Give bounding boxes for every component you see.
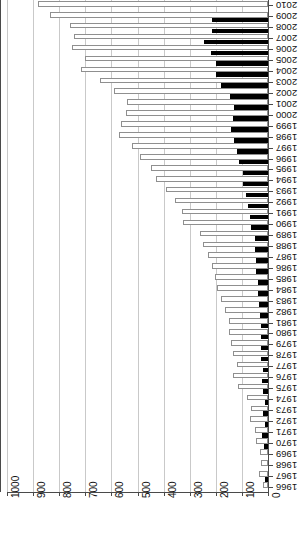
bar-total-1988: [203, 242, 268, 248]
y-tick-1999: [269, 126, 273, 127]
year-label-1985: 1985: [276, 274, 297, 284]
x-tick-label-200: 200: [220, 481, 230, 498]
y-tick-2006: [269, 49, 273, 50]
bar-total-1980: [229, 329, 268, 335]
y-tick-1981: [269, 323, 273, 324]
bar-total-2002: [114, 88, 268, 94]
year-label-2000: 2000: [276, 110, 297, 120]
y-tick-1991: [269, 213, 273, 214]
y-tick-1966: [269, 487, 273, 488]
year-label-1975: 1975: [276, 383, 297, 393]
year-label-1984: 1984: [276, 285, 297, 295]
year-label-1979: 1979: [276, 339, 297, 349]
year-label-2007: 2007: [276, 33, 297, 43]
bar-subset-1975: [263, 389, 268, 394]
bar-subset-2008: [212, 29, 268, 34]
year-label-1996: 1996: [276, 154, 297, 164]
year-label-2005: 2005: [276, 55, 297, 65]
year-label-2002: 2002: [276, 88, 297, 98]
bar-total-1976: [233, 373, 268, 379]
bar-subset-1977: [263, 368, 268, 373]
y-tick-1986: [269, 268, 273, 269]
bar-subset-1987: [256, 258, 268, 263]
gridline-700: [85, 0, 86, 492]
bar-subset-1999: [231, 127, 268, 132]
year-label-1978: 1978: [276, 350, 297, 360]
year-label-1993: 1993: [276, 186, 297, 196]
year-label-1994: 1994: [276, 175, 297, 185]
x-tick-500: [138, 492, 139, 496]
bar-total-1975: [238, 384, 268, 390]
bar-total-1994: [156, 176, 268, 182]
year-label-1983: 1983: [276, 296, 297, 306]
year-label-1990: 1990: [276, 219, 297, 229]
year-label-1971: 1971: [276, 427, 297, 437]
bar-subset-1980: [261, 335, 268, 340]
year-label-1997: 1997: [276, 143, 297, 153]
gridline-900: [33, 0, 34, 492]
year-label-1980: 1980: [276, 328, 297, 338]
year-label-1968: 1968: [276, 460, 297, 470]
x-tick-400: [164, 492, 165, 496]
x-tick-label-700: 700: [89, 481, 99, 498]
bar-subset-1984: [258, 291, 268, 296]
x-tick-600: [111, 492, 112, 496]
bar-total-1968: [261, 460, 268, 466]
x-tick-100: [242, 492, 243, 496]
y-tick-1989: [269, 235, 273, 236]
bar-subset-1988: [255, 247, 268, 252]
year-label-1972: 1972: [276, 416, 297, 426]
bar-total-2005: [85, 56, 268, 62]
y-tick-1993: [269, 191, 273, 192]
year-label-2006: 2006: [276, 44, 297, 54]
y-tick-2007: [269, 38, 273, 39]
year-label-1966: 1966: [276, 482, 297, 492]
year-label-1970: 1970: [276, 438, 297, 448]
bar-total-1978: [233, 351, 268, 357]
bar-total-1979: [231, 340, 268, 346]
bar-total-1970: [256, 438, 268, 444]
bar-subset-1973: [263, 411, 268, 416]
x-tick-label-400: 400: [168, 481, 178, 498]
year-label-1973: 1973: [276, 405, 297, 415]
y-tick-1976: [269, 377, 273, 378]
bar-total-1987: [208, 252, 268, 258]
year-label-1999: 1999: [276, 121, 297, 131]
y-tick-2005: [269, 60, 273, 61]
year-label-1969: 1969: [276, 449, 297, 459]
x-tick-label-500: 500: [142, 481, 152, 498]
y-tick-1985: [269, 279, 273, 280]
bar-total-1971: [255, 427, 268, 433]
y-tick-1994: [269, 180, 273, 181]
year-label-2008: 2008: [276, 22, 297, 32]
bar-subset-1974: [265, 400, 268, 405]
bar-subset-1970: [264, 444, 268, 449]
y-tick-1974: [269, 399, 273, 400]
bar-total-1986: [212, 263, 268, 269]
y-tick-1987: [269, 257, 273, 258]
y-tick-1972: [269, 421, 273, 422]
gridline-1000: [7, 0, 8, 492]
bar-total-1969: [260, 449, 268, 455]
year-label-2009: 2009: [276, 11, 297, 21]
bar-subset-1983: [259, 302, 268, 307]
year-label-1974: 1974: [276, 394, 297, 404]
bar-total-2007: [74, 34, 268, 40]
year-label-1992: 1992: [276, 197, 297, 207]
bar-total-1984: [217, 285, 268, 291]
y-tick-1970: [269, 443, 273, 444]
y-tick-1996: [269, 159, 273, 160]
bar-subset-1992: [248, 204, 268, 209]
bar-subset-1995: [243, 171, 268, 176]
bar-subset-1979: [261, 346, 268, 351]
bar-subset-2009: [212, 18, 268, 23]
year-label-1989: 1989: [276, 230, 297, 240]
y-tick-2010: [269, 5, 273, 6]
gridline-400: [164, 0, 165, 492]
x-tick-1000: [7, 492, 8, 496]
y-tick-1978: [269, 355, 273, 356]
bar-total-1982: [225, 307, 268, 313]
bar-subset-2002: [230, 94, 268, 99]
year-label-2003: 2003: [276, 77, 297, 87]
y-tick-1969: [269, 454, 273, 455]
